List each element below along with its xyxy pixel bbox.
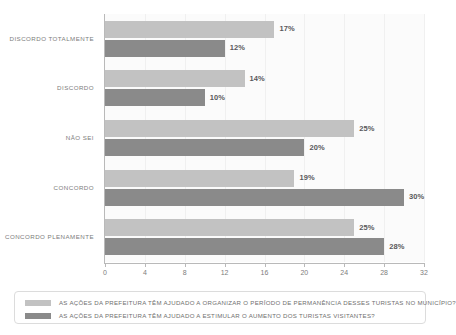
legend-item-organizar: AS AÇÕES DA PREFEITURA TÊM AJUDADO A ORG…	[25, 298, 456, 308]
legend-label-series-2: AS AÇÕES DA PREFEITURA TÊM AJUDADO A EST…	[59, 312, 375, 320]
category-label: CONCORDO PLENAMENTE	[5, 233, 94, 241]
bar-value-label: 30%	[409, 192, 424, 202]
x-axis-tick-mark	[384, 263, 385, 267]
x-axis-tick-mark	[145, 263, 146, 267]
bar	[105, 219, 354, 236]
bar	[105, 238, 384, 255]
bar	[105, 170, 294, 187]
gridline	[424, 14, 425, 262]
bar-value-label: 25%	[359, 223, 374, 233]
bar	[105, 70, 245, 87]
bar	[105, 189, 404, 206]
x-axis-tick-label: 8	[173, 268, 197, 278]
x-axis-tick-label: 28	[372, 268, 396, 278]
category-label: DISCORDO	[57, 84, 94, 92]
bar-value-label: 20%	[309, 143, 324, 153]
category-label: NÃO SEI	[66, 134, 94, 142]
x-axis-tick-label: 16	[253, 268, 277, 278]
x-axis-tick-mark	[225, 263, 226, 267]
legend-label-series-1: AS AÇÕES DA PREFEITURA TÊM AJUDADO A ORG…	[59, 299, 456, 307]
x-axis-tick-mark	[304, 263, 305, 267]
legend-item-estimular: AS AÇÕES DA PREFEITURA TÊM AJUDADO A EST…	[25, 311, 375, 321]
gridline	[384, 14, 385, 262]
x-axis-tick-mark	[344, 263, 345, 267]
bar	[105, 40, 225, 57]
x-axis-tick-label: 4	[133, 268, 157, 278]
legend-swatch-icon-series-2	[25, 313, 51, 319]
x-axis-tick-label: 24	[332, 268, 356, 278]
bar-value-label: 28%	[389, 242, 404, 252]
category-label: DISCORDO TOTALMENTE	[9, 35, 94, 43]
bar-value-label: 12%	[230, 43, 245, 53]
x-axis-tick-mark	[185, 263, 186, 267]
x-axis-tick-mark	[265, 263, 266, 267]
bar	[105, 21, 274, 38]
bar-value-label: 10%	[210, 93, 225, 103]
legend-swatch-icon-series-1	[25, 300, 51, 306]
plot-area	[105, 14, 424, 262]
x-axis-tick-label: 12	[213, 268, 237, 278]
bar	[105, 120, 354, 137]
x-axis-tick-mark	[424, 263, 425, 267]
bar	[105, 139, 304, 156]
legend: AS AÇÕES DA PREFEITURA TÊM AJUDADO A ORG…	[14, 291, 426, 324]
bar-value-label: 17%	[279, 24, 294, 34]
bar-value-label: 14%	[250, 74, 265, 84]
y-axis-line	[104, 14, 105, 264]
x-axis-tick-label: 0	[93, 268, 117, 278]
x-axis-tick-label: 32	[412, 268, 436, 278]
bar	[105, 89, 205, 106]
x-axis-tick-mark	[105, 263, 106, 267]
category-label: CONCORDO	[54, 184, 94, 192]
x-axis-tick-label: 20	[292, 268, 316, 278]
bar-value-label: 25%	[359, 124, 374, 134]
bar-value-label: 19%	[299, 173, 314, 183]
